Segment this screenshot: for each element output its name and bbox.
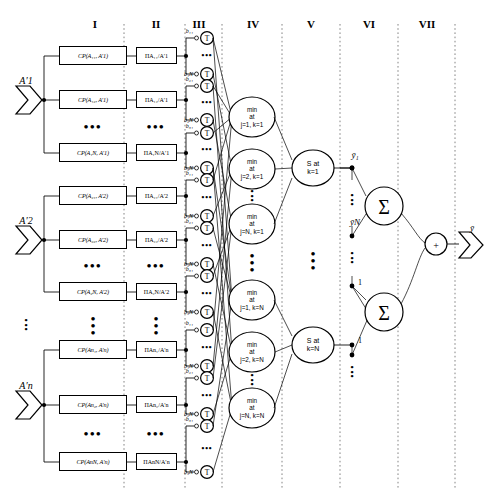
cp-ellipsis-2: ••• <box>84 263 102 269</box>
t-node-9[interactable]: T <box>205 224 210 233</box>
cp-box-7[interactable]: CP(An₁, A′n) <box>59 340 127 359</box>
b-label-5: b₃₁ <box>186 123 193 129</box>
b-label-13: b₁₁ <box>186 320 193 326</box>
t-ellipsis-1: ••• <box>202 54 213 58</box>
pi-box-1[interactable]: ΠA₁₁/A′1 <box>136 47 177 64</box>
pi-box-7[interactable]: ΠAn₁/A′n <box>136 341 177 358</box>
t-ellipsis-8: ••• <box>202 394 213 398</box>
t-node-12[interactable]: T <box>205 308 210 317</box>
t-node-14[interactable]: T <box>205 362 210 371</box>
t-ellipsis-2: ••• <box>202 101 213 105</box>
b-label-11: b₃₁ <box>186 266 193 272</box>
s-node-2[interactable]: S at k=N <box>307 337 320 354</box>
cp-box-6[interactable]: CP(A₂N, A′2) <box>59 282 127 301</box>
cp-box-3[interactable]: CP(A₁N, A′1) <box>59 143 127 162</box>
cp-vertical-ellipsis: • • • <box>91 315 96 336</box>
t-node-1[interactable]: T <box>205 34 210 43</box>
cp-box-4[interactable]: CP(A₂₁, A′2) <box>59 186 127 205</box>
t-node-11[interactable]: T <box>205 272 210 281</box>
t-ellipsis-7: ••• <box>202 346 213 350</box>
y-bus-ellipsis-3: • • • <box>350 365 353 379</box>
t-node-17[interactable]: T <box>205 422 210 431</box>
cp-box-1[interactable]: CP(A₁₁, A′1) <box>59 46 127 65</box>
y-to-sigma-lower <box>352 286 368 355</box>
min-node-5[interactable]: min at j=2, k=N <box>240 341 263 363</box>
t-node-5[interactable]: T <box>205 129 210 138</box>
min-node-3[interactable]: min at j=N, k=1 <box>240 213 263 235</box>
t-node-6[interactable]: T <box>205 164 210 173</box>
y-bar-N-label: ȳN <box>350 217 360 227</box>
cp-to-pi-links <box>127 56 136 462</box>
t-node-4[interactable]: T <box>205 116 210 125</box>
pi-box-8[interactable]: ΠAn₂/A′n <box>136 396 177 413</box>
t-node-2[interactable]: T <box>205 70 210 79</box>
b-label-1: b₁₁ <box>186 28 193 34</box>
t-node-7[interactable]: T <box>205 176 210 185</box>
input-fanout-2 <box>42 196 59 292</box>
layer-label-I: I <box>93 18 97 30</box>
cp-box-8[interactable]: CP(An₂, A′n) <box>59 395 127 414</box>
b-label-18: b₃N <box>184 469 193 475</box>
t-ellipsis-6: ••• <box>202 292 213 296</box>
cp-box-9[interactable]: CP(AnN, A′n) <box>59 452 127 471</box>
cp-ellipsis-3: ••• <box>84 431 102 437</box>
divider-node-shape <box>425 233 459 255</box>
min-to-s-links <box>274 117 292 408</box>
input-label-2: A′2 <box>19 215 32 226</box>
t-node-10[interactable]: T <box>205 260 210 269</box>
t-node-15[interactable]: T <box>205 374 210 383</box>
sum-node-2[interactable]: Σ <box>378 302 390 325</box>
input-fanout-3 <box>42 350 59 462</box>
pi-box-6[interactable]: ΠA₂N/A′2 <box>136 283 177 300</box>
b-label-15: b₂₁ <box>186 368 193 374</box>
b-label-12: b₃N <box>184 309 193 315</box>
pi-ellipsis-1: ••• <box>147 124 165 130</box>
diagram-canvas: .ln { stroke:#000; stroke-width:0.85; fi… <box>0 0 490 494</box>
divider-node[interactable]: + <box>433 240 439 251</box>
s-ellipsis: • • • <box>311 250 316 271</box>
min-node-1[interactable]: min at j=1, k=1 <box>241 106 263 128</box>
t-node-16[interactable]: T <box>205 410 210 419</box>
pi-ellipsis-3: ••• <box>147 431 165 437</box>
y-bar-1-label: ȳ₁ <box>351 150 358 160</box>
t-node-3[interactable]: T <box>205 82 210 91</box>
pi-box-4[interactable]: ΠA₂₁/A′2 <box>136 187 177 204</box>
t-ellipsis-3: ••• <box>202 148 213 152</box>
input-arrows <box>16 86 42 419</box>
t-node-8[interactable]: T <box>205 212 210 221</box>
s-node-1[interactable]: S at k=1 <box>307 160 319 177</box>
cp-box-2[interactable]: CP(A₁₂, A′1) <box>59 90 127 109</box>
sigma-to-divider-links <box>401 213 425 304</box>
b-label-3: b₂₁ <box>186 76 193 82</box>
input-label-n: A′n <box>19 380 32 391</box>
output-label: ȳ <box>470 223 474 233</box>
t-node-18[interactable]: T <box>205 468 210 477</box>
pi-box-9[interactable]: ΠAnN/A′n <box>136 453 177 470</box>
min-ellipsis-3: • • • <box>250 373 253 387</box>
min-node-2[interactable]: min at j=2, k=1 <box>241 158 263 180</box>
weight-label-2: 1 <box>358 336 362 345</box>
b-label-17: b₃₁ <box>186 416 193 422</box>
input-label-1: A′1 <box>19 75 32 86</box>
layer-label-IV: IV <box>247 18 259 30</box>
layer-label-VII: VII <box>419 18 436 30</box>
min-ellipsis-2: • • • <box>250 252 255 273</box>
t-ellipsis-4: ••• <box>202 196 213 200</box>
output-arrow-shape <box>459 232 483 258</box>
layer-label-II: II <box>152 18 161 30</box>
b-label-7: b₁₁ <box>186 170 193 176</box>
y-bus-ellipsis-1: • • • <box>350 193 353 207</box>
min-node-4[interactable]: min at j=1, k=N <box>240 289 263 311</box>
weight-label-1: 1 <box>358 278 362 287</box>
cp-box-5[interactable]: CP(A₂₂, A′2) <box>59 230 127 249</box>
sum-node-1[interactable]: Σ <box>378 196 390 219</box>
pi-box-2[interactable]: ΠA₁₂/A′1 <box>136 91 177 108</box>
pi-vertical-ellipsis: • • • <box>154 315 159 336</box>
pi-box-3[interactable]: ΠA₁N/A′1 <box>136 144 177 161</box>
pi-box-5[interactable]: ΠA₂₂/A′2 <box>136 231 177 248</box>
t-ellipsis-9: ••• <box>202 447 213 451</box>
min-node-6[interactable]: min at j=N, k=N <box>240 397 265 419</box>
min-ellipsis-1: • • • <box>250 189 253 203</box>
layer-label-VI: VI <box>363 18 375 30</box>
t-node-13[interactable]: T <box>205 326 210 335</box>
